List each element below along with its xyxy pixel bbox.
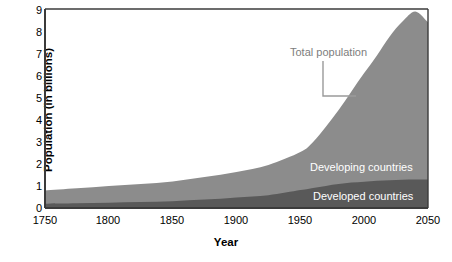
plot-area (0, 0, 452, 262)
leader-line (323, 61, 356, 96)
plot-areas (45, 11, 428, 208)
total-population-leader (323, 61, 356, 96)
population-area-chart: Population (in billions) Year 9 8 7 6 5 … (0, 0, 452, 262)
label-developed-countries: Developed countries (313, 190, 413, 202)
label-developing-countries: Developing countries (310, 161, 413, 173)
annotation-total-population: Total population (290, 46, 367, 58)
area-developing-countries (45, 11, 428, 208)
